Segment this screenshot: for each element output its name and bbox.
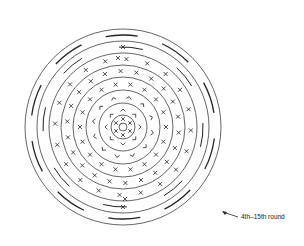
round-label: 4th–15th round [241, 213, 285, 220]
round-ring [37, 41, 209, 213]
round-ring [86, 90, 160, 164]
crochet-chart [0, 0, 304, 246]
round-ring [25, 29, 221, 225]
round-ring [99, 103, 147, 151]
round-ring [73, 77, 173, 177]
round-ring [119, 123, 127, 131]
round-ring [49, 53, 197, 201]
arrow-up-left-icon [222, 211, 240, 219]
